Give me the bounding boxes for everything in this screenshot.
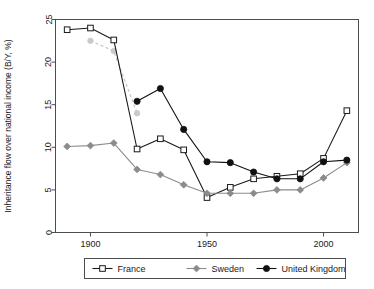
marker-filled-circle <box>344 157 350 163</box>
series-sweden-upper-dashed- <box>88 38 140 116</box>
legend-label: United Kingdom <box>282 264 346 274</box>
legend: FranceSwedenUnited Kingdom <box>85 259 346 279</box>
marker-filled-circle-light <box>88 38 94 44</box>
marker-open-square <box>111 37 117 43</box>
marker-filled-circle <box>157 85 163 91</box>
marker-open-square <box>228 185 234 191</box>
marker-filled-diamond <box>180 181 187 188</box>
marker-open-square <box>88 25 94 31</box>
y-tick-label: 15 <box>44 100 54 110</box>
x-tick-label: 1900 <box>80 239 100 249</box>
x-tick-label: 2000 <box>314 239 334 249</box>
marker-filled-circle <box>134 98 140 104</box>
inheritance-flow-line-chart: 0510152025190019502000Inheritance flow o… <box>0 0 374 289</box>
marker-filled-circle <box>251 169 257 175</box>
y-tick-label: 10 <box>44 142 54 152</box>
marker-filled-diamond <box>274 187 281 194</box>
marker-filled-diamond <box>250 190 257 197</box>
marker-open-square <box>181 147 187 153</box>
series-united-kingdom <box>134 85 350 182</box>
marker-filled-circle <box>263 265 269 271</box>
series-sweden <box>64 140 350 197</box>
marker-filled-circle <box>297 176 303 182</box>
marker-filled-circle <box>227 160 233 166</box>
marker-filled-diamond <box>157 171 164 178</box>
y-tick-label: 5 <box>44 187 54 192</box>
y-tick-label: 0 <box>44 230 54 235</box>
series-line <box>67 28 347 198</box>
marker-filled-circle <box>181 126 187 132</box>
marker-filled-diamond <box>64 143 71 150</box>
marker-filled-circle-light <box>134 110 140 116</box>
marker-open-square <box>251 176 257 182</box>
marker-open-square <box>344 108 350 114</box>
marker-open-square <box>64 27 70 33</box>
marker-filled-circle <box>204 159 210 165</box>
y-tick-label: 20 <box>44 57 54 67</box>
marker-open-square <box>158 136 164 142</box>
marker-filled-diamond <box>227 190 234 197</box>
y-axis-title: Inheritance flow over national income (B… <box>3 39 13 212</box>
marker-filled-circle <box>320 159 326 165</box>
y-tick-label: 25 <box>44 14 54 24</box>
chart-container: 0510152025190019502000Inheritance flow o… <box>0 0 374 289</box>
legend-label: France <box>118 264 146 274</box>
x-tick-label: 1950 <box>197 239 217 249</box>
marker-filled-diamond <box>87 142 94 149</box>
marker-open-square <box>134 146 140 152</box>
legend-label: Sweden <box>212 264 245 274</box>
series-line <box>67 143 347 193</box>
marker-filled-diamond <box>297 187 304 194</box>
marker-open-square <box>100 266 106 272</box>
marker-filled-diamond <box>320 175 327 182</box>
series-line <box>137 89 347 179</box>
marker-filled-circle <box>274 176 280 182</box>
